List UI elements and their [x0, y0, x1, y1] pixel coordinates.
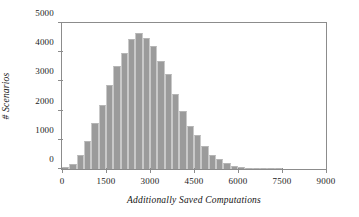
- histogram-bar: [62, 167, 69, 169]
- x-tick-label: 3000: [141, 176, 160, 186]
- histogram-bar: [135, 33, 142, 169]
- y-tick-mark: [58, 51, 63, 52]
- x-tick-mark: [326, 168, 327, 173]
- y-tick-label: 1000: [35, 125, 54, 135]
- y-tick-label: 4000: [35, 37, 54, 47]
- histogram-bar: [223, 163, 230, 169]
- histogram-bar: [84, 141, 91, 169]
- x-tick-label: 6000: [229, 176, 248, 186]
- y-tick-mark: [58, 110, 63, 111]
- y-tick-label: 5000: [35, 8, 54, 18]
- histogram-bar: [91, 123, 98, 169]
- histogram-bar: [121, 53, 128, 169]
- histogram-bar: [179, 111, 186, 169]
- y-axis-title: # Scenarios: [1, 73, 11, 120]
- histogram-bar: [267, 168, 274, 169]
- x-axis-title: Additionally Saved Computations: [61, 195, 327, 205]
- histogram-bar: [238, 167, 245, 169]
- x-tick-label: 0: [60, 176, 65, 186]
- x-tick-mark: [106, 168, 107, 173]
- y-tick-label: 2000: [35, 96, 54, 106]
- x-tick-mark: [62, 168, 63, 173]
- histogram-bar: [77, 155, 84, 169]
- histogram-bar: [69, 164, 76, 169]
- histogram-bar: [245, 168, 252, 169]
- histogram-bar: [128, 39, 135, 169]
- histogram-bar: [253, 168, 260, 169]
- histogram-bar: [209, 155, 216, 169]
- y-tick-label: 0: [49, 154, 54, 164]
- histogram-bar: [157, 61, 164, 169]
- y-tick-mark: [58, 80, 63, 81]
- plot-area: 010002000300040005000 015003000450060007…: [61, 22, 327, 170]
- histogram-bar: [165, 74, 172, 169]
- x-tick-mark: [194, 168, 195, 173]
- histogram-chart: 010002000300040005000 015003000450060007…: [0, 0, 359, 217]
- histogram-bar: [106, 85, 113, 169]
- bars-layer: [62, 23, 326, 169]
- histogram-bar: [113, 66, 120, 169]
- y-tick-mark: [58, 139, 63, 140]
- x-tick-mark: [150, 168, 151, 173]
- x-tick-label: 1500: [97, 176, 116, 186]
- x-tick-label: 4500: [185, 176, 204, 186]
- histogram-bar: [150, 46, 157, 169]
- histogram-bar: [231, 166, 238, 169]
- x-tick-label: 9000: [317, 176, 336, 186]
- histogram-bar: [194, 135, 201, 169]
- y-tick-label: 3000: [35, 66, 54, 76]
- x-tick-label: 7500: [273, 176, 292, 186]
- histogram-bar: [275, 168, 282, 169]
- histogram-bar: [143, 38, 150, 169]
- y-tick-mark: [58, 22, 63, 23]
- histogram-bar: [201, 146, 208, 169]
- x-tick-mark: [282, 168, 283, 173]
- histogram-bar: [187, 126, 194, 169]
- histogram-bar: [99, 105, 106, 169]
- x-tick-mark: [238, 168, 239, 173]
- histogram-bar: [172, 94, 179, 169]
- histogram-bar: [216, 159, 223, 169]
- histogram-bar: [260, 168, 267, 169]
